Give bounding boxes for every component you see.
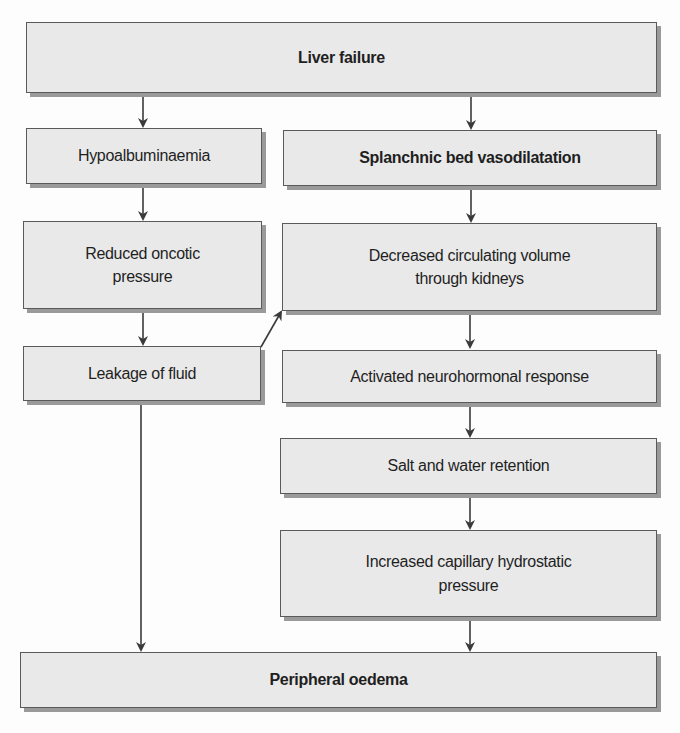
node-splanchnic-vasodilatation: Splanchnic bed vasodilatation (283, 130, 657, 186)
node-salt-water-retention: Salt and water retention (280, 438, 657, 494)
node-label: Leakage of fluid (88, 362, 196, 385)
node-label: Peripheral oedema (269, 668, 407, 691)
node-label: Hypoalbuminaemia (78, 144, 210, 167)
node-label: Salt and water retention (388, 454, 550, 477)
node-label-line1: Decreased circulating volume (369, 244, 570, 267)
node-label-line2: pressure (439, 574, 499, 597)
node-decreased-circulating-volume: Decreased circulating volume through kid… (282, 223, 657, 311)
node-label-line2: pressure (113, 265, 173, 288)
node-label-line2: through kidneys (415, 267, 523, 290)
flowchart-canvas: Liver failure Hypoalbuminaemia Splanchni… (0, 0, 680, 733)
arrow-leakage-to-volume (261, 312, 281, 347)
node-leakage-of-fluid: Leakage of fluid (23, 346, 261, 401)
node-hypoalbuminaemia: Hypoalbuminaemia (26, 128, 262, 184)
node-label-line1: Reduced oncotic (85, 242, 200, 265)
node-reduced-oncotic-pressure: Reduced oncotic pressure (23, 221, 262, 309)
node-label: Splanchnic bed vasodilatation (359, 146, 581, 169)
node-activated-neurohormonal-response: Activated neurohormonal response (282, 350, 657, 403)
node-label: Liver failure (298, 46, 385, 69)
node-peripheral-oedema: Peripheral oedema (20, 652, 657, 708)
node-increased-capillary-pressure: Increased capillary hydrostatic pressure (280, 530, 657, 617)
node-label-line1: Increased capillary hydrostatic (366, 550, 572, 573)
node-liver-failure: Liver failure (26, 22, 657, 93)
node-label: Activated neurohormonal response (350, 365, 589, 388)
